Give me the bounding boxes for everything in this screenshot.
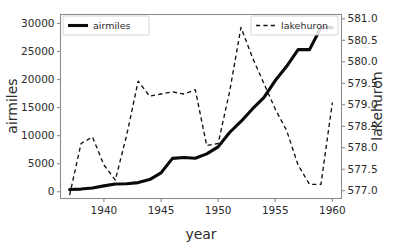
legend-lakehuron-label: lakehuron [281,20,328,31]
x-tick-label: 1960 [319,204,346,216]
y2-tick-label: 580.0 [348,55,378,67]
y-tick-label: 5000 [28,157,55,169]
y-tick-label: 15000 [21,101,54,113]
y-tick-label: 10000 [21,129,54,141]
y2-tick-label: 581.0 [348,12,378,24]
x-tick-label: 1950 [205,204,232,216]
line-chart: 19401945195019551960 0500010000150002000… [0,0,395,244]
y-tick-label: 0 [48,185,55,197]
y2-tick-label: 580.5 [348,34,378,46]
chart-figure: 19401945195019551960 0500010000150002000… [0,0,395,244]
x-tick-label: 1945 [148,204,175,216]
y2-tick-label: 578.0 [348,141,378,153]
y2-tick-label: 577.0 [348,184,378,196]
y-tick-label: 25000 [21,45,54,57]
legend-airmiles-label: airmiles [93,20,131,31]
x-axis-title: year [185,226,216,242]
y-axis-right-title: lakehuron [369,71,385,140]
y2-tick-label: 577.5 [348,163,378,175]
legend-lakehuron[interactable]: lakehuron [251,16,338,35]
y-axis-left-title: airmiles [4,78,20,133]
y-tick-label: 30000 [21,17,54,29]
legend-airmiles[interactable]: airmiles [63,16,149,35]
y-tick-label: 20000 [21,73,54,85]
x-tick-label: 1955 [262,204,289,216]
x-tick-label: 1940 [91,204,118,216]
